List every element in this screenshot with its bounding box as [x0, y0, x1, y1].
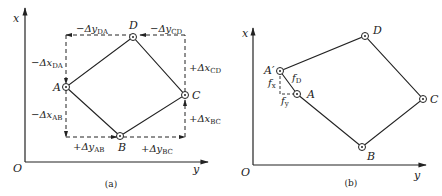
point-label-A: A — [52, 81, 61, 94]
caption-b: (b) — [345, 178, 358, 188]
point-label-A: A — [306, 88, 315, 101]
point-label-A-prime: A′ — [263, 64, 275, 77]
point-label-C: C — [430, 93, 439, 106]
label-dx-BC: +ΔxBC — [189, 113, 221, 126]
diagram-canvas: x y O A B C D −ΔyDA −ΔyCD −ΔxDA −ΔxAB +Δ — [0, 0, 442, 196]
station-marker-C — [420, 96, 427, 103]
y-axis-label: y — [413, 169, 421, 182]
point-label-D: D — [128, 19, 138, 32]
label-fx: fx — [267, 77, 276, 90]
figure-b: x y O A′ A B C D fD fx fy (b) — [241, 24, 439, 188]
traverse-polygon-a — [66, 37, 185, 136]
label-dx-AB: −ΔxAB — [31, 109, 62, 122]
label-dx-DA: −ΔxDA — [31, 57, 64, 70]
x-axis-label: x — [242, 27, 249, 40]
label-dy-AB: +ΔyAB — [73, 141, 104, 154]
station-marker-D — [130, 34, 137, 41]
label-dy-CD: −ΔyCD — [150, 23, 183, 36]
origin-label: O — [13, 162, 22, 175]
increment-rectangle — [66, 35, 185, 137]
traverse-polygon-b — [280, 36, 423, 147]
station-marker-C — [182, 92, 189, 99]
station-marker-A — [294, 91, 301, 98]
station-marker-B — [117, 133, 124, 140]
caption-a: (a) — [105, 179, 117, 189]
origin-label: O — [241, 166, 250, 179]
label-dy-BC: +ΔyBC — [141, 143, 173, 156]
label-dx-CD: +ΔxCD — [189, 62, 222, 75]
label-dy-DA: −ΔyDA — [76, 23, 109, 36]
x-axis-label: x — [13, 12, 20, 25]
label-fy: fy — [280, 95, 289, 108]
station-marker-A — [63, 84, 70, 91]
point-label-B: B — [366, 150, 375, 163]
label-fD: fD — [291, 72, 302, 85]
station-marker-D — [362, 33, 369, 40]
point-label-B: B — [117, 141, 126, 154]
station-marker-A-prime — [277, 68, 284, 75]
point-label-C: C — [192, 89, 201, 102]
point-label-D: D — [372, 24, 382, 37]
station-marker-B — [359, 144, 366, 151]
figure-a: x y O A B C D −ΔyDA −ΔyCD −ΔxDA −ΔxAB +Δ — [13, 8, 222, 189]
y-axis-label: y — [192, 163, 200, 176]
